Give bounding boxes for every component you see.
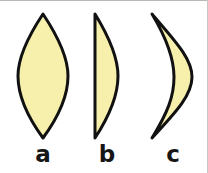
shape-label-b: b (87, 143, 127, 166)
lens-shape-biconvex (18, 14, 68, 138)
shape-label-a: a (23, 143, 63, 166)
half-lens-shape-plano-convex (95, 14, 118, 138)
crescent-shape-concave-convex (152, 14, 192, 138)
figure-container: a b c (0, 0, 208, 173)
shape-label-c: c (153, 143, 193, 166)
